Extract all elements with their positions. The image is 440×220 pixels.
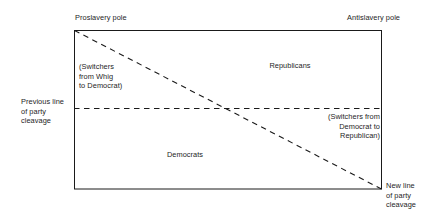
democrats-region-label: Democrats: [135, 150, 235, 160]
switchers-democrat-to-republican-label: (Switchers from Democrat to Republican): [290, 112, 380, 141]
switchers-whig-to-democrat-label: (Switchers from Whig to Democrat): [79, 62, 161, 91]
realignment-diagram: Proslavery pole Antislavery pole Previou…: [0, 0, 440, 220]
antislavery-pole-label: Antislavery pole: [278, 13, 400, 23]
new-cleavage-line: [75, 31, 382, 190]
new-cleavage-label: New line of party cleavage: [386, 181, 438, 210]
proslavery-pole-label: Proslavery pole: [75, 13, 127, 23]
previous-cleavage-label: Previous line of party cleavage: [21, 97, 71, 126]
republicans-region-label: Republicans: [240, 61, 340, 71]
